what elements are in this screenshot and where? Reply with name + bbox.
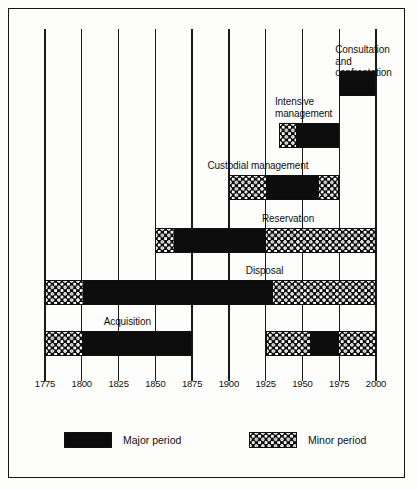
bar-segment-minor (46, 332, 82, 355)
x-tick-label-1875: 1875 (172, 378, 212, 389)
gridline-1900 (228, 29, 229, 381)
x-tick-label-1900: 1900 (209, 378, 249, 389)
bar-segment-major (266, 176, 319, 199)
bar-segment-major (82, 332, 191, 355)
figure-frame: Consultation and confrontationIntensive … (8, 8, 405, 478)
x-tick-label-1975: 1975 (319, 378, 359, 389)
bar-segment-minor (46, 281, 83, 304)
bar-segment-minor (266, 229, 375, 252)
timeline-plot-area: Consultation and confrontationIntensive … (9, 9, 406, 479)
gridline-1925 (265, 29, 266, 381)
timeline-bar (266, 331, 376, 356)
legend-label-major: Major period (123, 434, 181, 446)
legend-label-minor: Minor period (308, 434, 366, 446)
gridline-1775 (44, 29, 45, 381)
gridline-1950 (302, 29, 303, 381)
bar-label: Consultation and confrontation (335, 44, 406, 79)
legend-item-major: Major period (64, 432, 181, 448)
x-tick-label-1775: 1775 (25, 378, 65, 389)
bar-segment-minor (156, 229, 173, 252)
legend-swatch-minor (249, 432, 297, 448)
x-tick-label-1825: 1825 (99, 378, 139, 389)
legend-swatch-major (64, 432, 112, 448)
bar-segment-minor (339, 332, 375, 355)
timeline-bar (229, 175, 339, 200)
bar-segment-minor (230, 176, 266, 199)
x-tick-label-1950: 1950 (282, 378, 322, 389)
x-tick-label-1925: 1925 (246, 378, 286, 389)
bar-label: Disposal (9, 265, 376, 277)
bar-segment-minor (280, 124, 296, 147)
timeline-bar (155, 228, 376, 253)
timeline-bar (279, 123, 339, 148)
bar-segment-major (310, 332, 339, 355)
bar-label: Acquisition (9, 316, 192, 328)
x-tick-label-2000: 2000 (356, 378, 396, 389)
legend-item-minor: Minor period (249, 432, 366, 448)
bar-segment-minor (267, 332, 310, 355)
bar-segment-minor (273, 281, 375, 304)
timeline-bar (45, 331, 192, 356)
bar-segment-minor (319, 176, 338, 199)
bar-segment-major (296, 124, 339, 147)
gridline-1850 (155, 29, 156, 381)
bar-segment-major (83, 281, 273, 304)
x-tick-label-1800: 1800 (62, 378, 102, 389)
bar-segment-major (174, 229, 266, 252)
gridline-1875 (191, 29, 192, 381)
bar-label: Custodial management (9, 160, 339, 172)
timeline-bar (45, 280, 376, 305)
gridline-1800 (81, 29, 82, 381)
bar-label: Reservation (9, 213, 376, 225)
gridline-1825 (118, 29, 119, 381)
chart-legend: Major periodMinor period (9, 424, 406, 464)
bar-label: Intensive management (275, 96, 332, 119)
x-tick-label-1850: 1850 (135, 378, 175, 389)
